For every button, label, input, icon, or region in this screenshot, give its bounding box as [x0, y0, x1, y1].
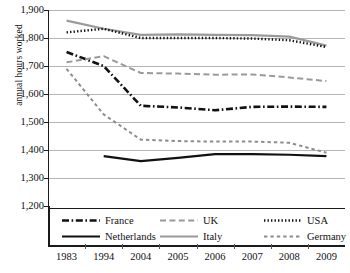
legend-item-france[interactable]: France: [62, 213, 134, 228]
legend-label: Netherlands: [105, 231, 156, 242]
plot-left-axis: [48, 10, 345, 206]
legend-swatch-usa-icon: [264, 215, 302, 226]
x-tick-label: 2005: [167, 251, 188, 262]
y-tick-label: 1,400: [0, 145, 44, 155]
legend-swatch-france-icon: [62, 215, 100, 226]
legend-swatch-germany-icon: [264, 231, 302, 242]
y-tick-label: 1,800: [0, 33, 44, 43]
legend-item-italy[interactable]: Italy: [160, 229, 222, 244]
y-tick-label: 1,200: [0, 201, 44, 211]
y-axis-tick-labels: 1,9001,8001,7001,6001,5001,4001,3001,200: [0, 0, 44, 273]
legend-label: Italy: [203, 231, 222, 242]
legend-row: FranceUKUSA: [48, 213, 345, 228]
x-tick-mark: [122, 244, 123, 249]
legend-label: France: [105, 215, 134, 226]
legend-swatch-italy-icon: [160, 231, 198, 242]
x-tick-label: 1994: [93, 251, 114, 262]
x-tick-label: 1983: [56, 251, 77, 262]
x-tick-label: 2008: [279, 251, 300, 262]
y-tick-label: 1,700: [0, 61, 44, 71]
x-tick-mark: [159, 244, 160, 249]
legend: FranceUKUSANetherlandsItalyGermany: [48, 208, 345, 245]
x-axis-tick-labels: 19831994200420052006200720082009: [48, 249, 345, 267]
y-tick-label: 1,300: [0, 173, 44, 183]
legend-item-uk[interactable]: UK: [160, 213, 218, 228]
legend-label: Germany: [307, 231, 346, 242]
legend-item-netherlands[interactable]: Netherlands: [62, 229, 156, 244]
y-tick-label: 1,900: [0, 5, 44, 15]
legend-item-germany[interactable]: Germany: [264, 229, 346, 244]
x-tick-label: 2007: [242, 251, 263, 262]
legend-swatch-uk-icon: [160, 215, 198, 226]
y-tick-label: 1,600: [0, 89, 44, 99]
x-tick-mark: [197, 244, 198, 249]
chart-figure: annual hours worked 1,9001,8001,7001,600…: [0, 0, 350, 273]
legend-item-usa[interactable]: USA: [264, 213, 328, 228]
x-tick-label: 2009: [316, 251, 337, 262]
legend-label: USA: [307, 215, 328, 226]
y-tick-label: 1,500: [0, 117, 44, 127]
legend-swatch-netherlands-icon: [62, 231, 100, 242]
legend-label: UK: [203, 215, 218, 226]
x-tick-label: 2004: [130, 251, 151, 262]
x-tick-mark: [271, 244, 272, 249]
x-tick-mark: [308, 244, 309, 249]
x-tick-mark: [234, 244, 235, 249]
x-tick-mark: [85, 244, 86, 249]
x-tick-label: 2006: [205, 251, 226, 262]
legend-row: NetherlandsItalyGermany: [48, 229, 345, 244]
